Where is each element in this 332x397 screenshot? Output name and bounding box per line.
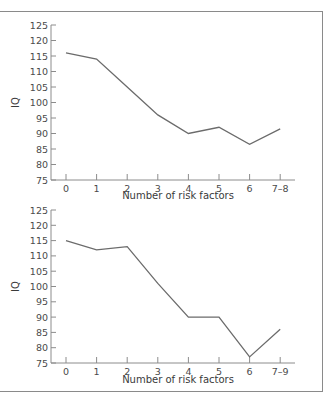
y-tick-label: 105 bbox=[30, 266, 48, 277]
y-axis-title: IQ bbox=[10, 97, 21, 108]
y-tick-label: 100 bbox=[30, 281, 48, 292]
x-tick-label: 6 bbox=[247, 183, 253, 194]
y-tick-label: 120 bbox=[30, 35, 48, 46]
x-axis-title: Number of risk factors bbox=[122, 190, 234, 201]
y-tick-label: 90 bbox=[36, 128, 48, 139]
y-tick-label: 75 bbox=[36, 175, 48, 186]
y-tick-label: 125 bbox=[30, 20, 48, 31]
chart-bottom: 758085909510010511011512012501234567–9IQ… bbox=[10, 205, 295, 386]
y-tick-label: 85 bbox=[36, 144, 48, 155]
chart-canvas: 758085909510010511011512012501234567–8IQ… bbox=[0, 0, 332, 397]
y-tick-label: 100 bbox=[30, 97, 48, 108]
x-axis-title: Number of risk factors bbox=[122, 374, 234, 385]
y-tick-label: 105 bbox=[30, 82, 48, 93]
y-tick-label: 85 bbox=[36, 327, 48, 338]
y-tick-label: 95 bbox=[36, 296, 48, 307]
y-tick-label: 80 bbox=[36, 342, 48, 353]
y-tick-label: 115 bbox=[30, 51, 48, 62]
y-tick-label: 95 bbox=[36, 113, 48, 124]
y-tick-label: 110 bbox=[30, 250, 48, 261]
y-tick-label: 80 bbox=[36, 159, 48, 170]
x-tick-label: 7–8 bbox=[272, 183, 289, 194]
data-line bbox=[66, 53, 280, 144]
x-tick-label: 0 bbox=[63, 366, 69, 377]
y-tick-label: 120 bbox=[30, 220, 48, 231]
y-axis-title: IQ bbox=[10, 281, 21, 292]
x-tick-label: 1 bbox=[94, 183, 100, 194]
x-tick-label: 1 bbox=[94, 366, 100, 377]
y-tick-label: 90 bbox=[36, 312, 48, 323]
y-tick-label: 75 bbox=[36, 358, 48, 369]
data-line bbox=[66, 241, 280, 357]
chart-top: 758085909510010511011512012501234567–8IQ… bbox=[10, 20, 295, 202]
y-tick-label: 110 bbox=[30, 66, 48, 77]
y-tick-label: 115 bbox=[30, 235, 48, 246]
x-tick-label: 0 bbox=[63, 183, 69, 194]
x-tick-label: 6 bbox=[247, 366, 253, 377]
x-tick-label: 7–9 bbox=[272, 366, 289, 377]
y-tick-label: 125 bbox=[30, 205, 48, 216]
